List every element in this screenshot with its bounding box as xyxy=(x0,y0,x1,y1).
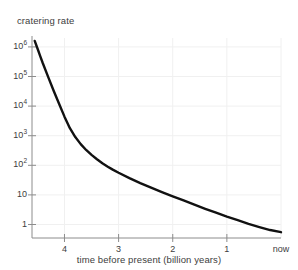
chart-x-axis-title: time before present (billion years) xyxy=(0,254,298,265)
y-axis-tick-label: 105 xyxy=(1,71,27,81)
x-axis-tick-label: 4 xyxy=(47,244,81,254)
x-axis-tick-label: now xyxy=(264,244,298,254)
plot-canvas xyxy=(0,0,298,270)
y-axis-tick-label: 104 xyxy=(1,100,27,110)
x-axis-tick-label: 2 xyxy=(156,244,190,254)
x-axis-tick-label: 3 xyxy=(102,244,136,254)
y-axis-tick-label: 102 xyxy=(1,159,27,169)
y-axis-tick-label: 1 xyxy=(1,219,27,229)
x-axis-tick-label: 1 xyxy=(210,244,244,254)
cratering-rate-chart: cratering rate time before present (bill… xyxy=(0,0,298,270)
y-axis-tick-label: 106 xyxy=(1,41,27,51)
y-axis-tick-label: 103 xyxy=(1,130,27,140)
chart-y-axis-title: cratering rate xyxy=(17,15,74,26)
y-axis-tick-label: 10 xyxy=(1,189,27,199)
data-curve-cratering-rate xyxy=(35,41,281,232)
